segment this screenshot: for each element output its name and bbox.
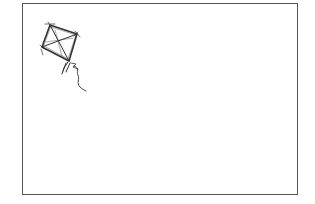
kite-icon [0,0,315,204]
kite-tail-bows [62,62,70,74]
kite-strut-horizontal [42,34,77,47]
kite-string [74,66,86,91]
